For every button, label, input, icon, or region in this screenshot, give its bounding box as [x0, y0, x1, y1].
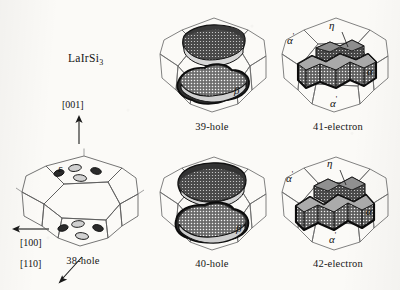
sheet-label-beta-39-hole: β: [234, 84, 239, 96]
panel-caption-41-electron: 41-electron: [292, 121, 384, 132]
sheet-label-beta-40-hole: β: [236, 222, 241, 234]
prime-mark-upper-41: ': [293, 32, 294, 41]
figure-canvas: LaIrSi3 [001] [100] [110]: [0, 0, 400, 290]
prime-mark-lower-42: ': [335, 231, 336, 240]
panel-39-hole-drawing: [148, 10, 280, 118]
sheet-label-alpha-prime-lower-42-electron: α': [329, 231, 336, 245]
sheet-upper-39-hole: [183, 25, 245, 66]
sheet-alpha-41-electron: [298, 54, 376, 88]
sheet-label-alpha-prime-upper-42-electron: α': [286, 170, 293, 184]
panel-caption-40-hole: 40-hole: [170, 258, 254, 269]
sheet-label-eta-41-electron: η: [329, 19, 334, 31]
panel-caption-38-hole: 38-hole: [38, 255, 128, 266]
compound-formula-subscript: 3: [99, 58, 103, 67]
prime-mark-lower-41: ': [336, 95, 337, 104]
direction-arrow-001: [72, 113, 86, 149]
panel-40-hole: [148, 150, 280, 256]
panel-40-hole-drawing: [148, 150, 280, 256]
sheet-label-alpha-prime-upper-41-electron: α': [287, 32, 294, 46]
compound-formula: LaIrSi3: [68, 52, 104, 67]
panel-38-hole-drawing: [8, 148, 148, 253]
sheet-label-alpha-prime-lower-41-electron: α': [330, 95, 337, 109]
panel-39-hole: [148, 10, 280, 118]
epsilon-pockets-bottom: [57, 220, 104, 240]
sheet-label-alpha-42-electron: α: [366, 205, 372, 217]
panel-caption-42-electron: 42-electron: [290, 258, 386, 269]
compound-formula-text: LaIrSi: [68, 52, 99, 64]
sheet-label-epsilon-38-hole: ε: [58, 162, 62, 174]
sheet-alpha-42-electron: [296, 195, 374, 230]
panel-caption-39-hole: 39-hole: [170, 121, 254, 132]
sheet-label-alpha-41-electron: α: [367, 65, 373, 77]
sheet-upper-40-hole: [178, 163, 246, 207]
direction-label-001: [001]: [62, 99, 84, 110]
sheet-label-eta-42-electron: η: [327, 157, 332, 169]
prime-mark-upper-42: ': [292, 170, 293, 179]
panel-38-hole: [8, 148, 148, 253]
